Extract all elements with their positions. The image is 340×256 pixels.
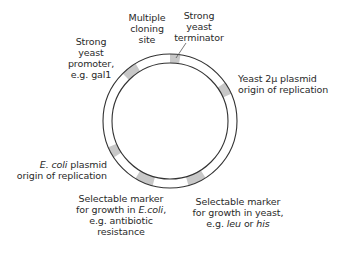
- label-strong-yeast-terminator: Strong yeast terminator: [174, 10, 224, 43]
- terminator-line-3: terminator: [174, 32, 224, 43]
- promoter-line-3: promoter,: [66, 58, 116, 69]
- promoter-line-2: yeast: [66, 47, 116, 58]
- yeast-marker-line-1: Selectable marker: [186, 196, 290, 207]
- yeast-marker-line-3: e.g. leu or his: [186, 218, 290, 229]
- ecoli-marker-line-4: resistance: [66, 226, 176, 237]
- plasmid-inner-ring: [112, 63, 228, 179]
- ecoli-marker-post: ,: [163, 204, 166, 215]
- label-yeast-selectable-marker: Selectable marker for growth in yeast, e…: [186, 196, 290, 229]
- ecoli-marker-line-2: for growth in E.coli,: [66, 204, 176, 215]
- ecoli-origin-line-2: origin of replication: [17, 170, 107, 181]
- ecoli-origin-line-1: E. coli plasmid: [17, 159, 107, 170]
- yeast-marker-his: his: [256, 218, 269, 229]
- mcs-line-1: Multiple: [118, 12, 176, 23]
- mcs-line-3: site: [118, 34, 176, 45]
- plasmid-segments: [108, 54, 231, 186]
- label-multiple-cloning-site: Multiple cloning site: [118, 12, 176, 45]
- label-ecoli-selectable-marker: Selectable marker for growth in E.coli, …: [66, 193, 176, 237]
- label-ecoli-origin: E. coli plasmid origin of replication: [17, 159, 107, 181]
- ecoli-marker-line-3: e.g. antibiotic: [66, 215, 176, 226]
- ecoli-marker-italic: E.coli: [138, 204, 163, 215]
- label-strong-yeast-promoter: Strong yeast promoter, e.g. gal1: [66, 36, 116, 80]
- segment-terminator: [170, 54, 180, 64]
- ecoli-marker-line-1: Selectable marker: [66, 193, 176, 204]
- yeast-marker-or: or: [241, 218, 256, 229]
- ecoli-italic: E. coli: [40, 159, 68, 170]
- yeast-marker-leu: leu: [227, 218, 241, 229]
- yeast-marker-line-2: for growth in yeast,: [186, 207, 290, 218]
- label-yeast-2u-origin: Yeast 2μ plasmid origin of replication: [238, 73, 328, 95]
- promoter-line-4: e.g. gal1: [66, 69, 116, 80]
- ecoli-origin-rest: plasmid: [67, 159, 107, 170]
- yeast-origin-line-1: Yeast 2μ plasmid: [238, 73, 328, 84]
- terminator-line-2: yeast: [174, 21, 224, 32]
- ecoli-marker-pre: for growth in: [76, 204, 138, 215]
- promoter-line-1: Strong: [66, 36, 116, 47]
- mcs-line-2: cloning: [118, 23, 176, 34]
- yeast-marker-pre: e.g.: [206, 218, 226, 229]
- terminator-line-1: Strong: [174, 10, 224, 21]
- yeast-origin-line-2: origin of replication: [238, 84, 328, 95]
